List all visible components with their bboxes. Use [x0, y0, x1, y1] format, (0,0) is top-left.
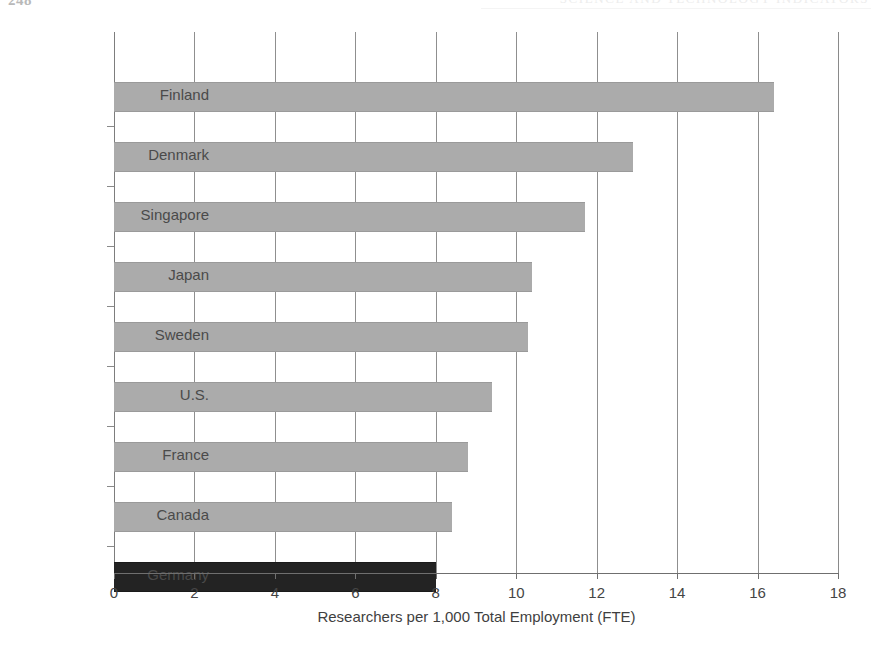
x-axis-tick-18 [838, 573, 839, 579]
x-axis-tick-14 [677, 573, 678, 579]
y-axis-label-finland: Finland [9, 86, 209, 103]
y-axis-label-france: France [9, 446, 209, 463]
x-axis-tick-label-2: 2 [174, 584, 214, 601]
x-axis-tick-label-4: 4 [255, 584, 295, 601]
y-axis-tick-6 [107, 486, 114, 487]
gridline-4 [275, 32, 276, 573]
gridline-12 [597, 32, 598, 573]
x-axis-line [114, 573, 839, 574]
gridline-14 [677, 32, 678, 573]
y-axis-tick-2 [107, 246, 114, 247]
x-axis-tick-10 [516, 573, 517, 579]
y-axis-label-germany: Germany [9, 566, 209, 583]
bar-chart: FinlandDenmarkSingaporeJapanSwedenU.S.Fr… [0, 0, 879, 655]
x-axis-tick-label-18: 18 [818, 584, 858, 601]
gridline-6 [355, 32, 356, 573]
x-axis-tick-label-6: 6 [335, 584, 375, 601]
y-axis-label-denmark: Denmark [9, 146, 209, 163]
y-axis-tick-4 [107, 366, 114, 367]
gridline-2 [194, 32, 195, 573]
x-axis-tick-8 [436, 573, 437, 579]
y-axis-tick-5 [107, 426, 114, 427]
x-axis-tick-16 [758, 573, 759, 579]
x-axis-title: Researchers per 1,000 Total Employment (… [114, 608, 839, 625]
y-axis-label-singapore: Singapore [9, 206, 209, 223]
y-axis-tick-0 [107, 126, 114, 127]
x-axis-tick-label-16: 16 [738, 584, 778, 601]
x-axis-tick-label-14: 14 [657, 584, 697, 601]
x-axis-tick-2 [194, 573, 195, 579]
gridline-10 [516, 32, 517, 573]
x-axis-tick-label-8: 8 [416, 584, 456, 601]
y-axis-label-japan: Japan [9, 266, 209, 283]
plot-area: FinlandDenmarkSingaporeJapanSwedenU.S.Fr… [114, 32, 838, 573]
bar-finland [114, 82, 774, 112]
x-axis-tick-12 [597, 573, 598, 579]
x-axis-tick-label-0: 0 [94, 584, 134, 601]
x-axis-tick-6 [355, 573, 356, 579]
x-axis-tick-label-12: 12 [577, 584, 617, 601]
y-axis-label-sweden: Sweden [9, 326, 209, 343]
x-axis-tick-0 [114, 573, 115, 579]
y-axis-tick-3 [107, 306, 114, 307]
x-axis-tick-label-10: 10 [496, 584, 536, 601]
gridline-0 [114, 32, 115, 573]
y-axis-label-canada: Canada [9, 506, 209, 523]
y-axis-tick-7 [107, 546, 114, 547]
gridline-8 [436, 32, 437, 573]
y-axis-tick-1 [107, 186, 114, 187]
gridline-16 [758, 32, 759, 573]
gridline-18 [838, 32, 839, 573]
x-axis-tick-4 [275, 573, 276, 579]
y-axis-label-u-s: U.S. [9, 386, 209, 403]
